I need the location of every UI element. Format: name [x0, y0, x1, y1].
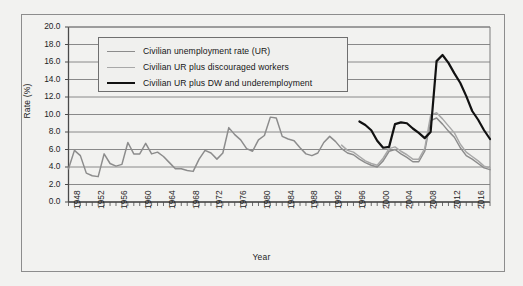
x-axis-label: 2008: [428, 190, 438, 209]
y-axis-label: 16.0: [27, 56, 61, 66]
x-axis-label: 1972: [214, 190, 224, 209]
x-axis-label: 1960: [143, 190, 153, 209]
series-line-1: [69, 117, 491, 177]
y-axis-label: 6.0: [27, 144, 61, 154]
y-axis-label: 10.0: [27, 109, 61, 119]
chart-figure: Rate (%) Year Civilian unemployment rate…: [0, 0, 523, 286]
series-line-3: [359, 55, 490, 148]
x-axis-label: 1996: [357, 190, 367, 209]
x-axis-label: 2000: [381, 190, 391, 209]
legend-swatch-line-icon: [107, 51, 135, 52]
legend-label: Civilian unemployment rate (UR): [143, 46, 270, 56]
x-axis-label: 1948: [72, 190, 82, 209]
x-axis-label: 1980: [262, 190, 272, 209]
x-axis-label: 1956: [119, 190, 129, 209]
x-axis-label: 2016: [476, 190, 486, 209]
x-axis-title: Year: [0, 252, 523, 262]
y-axis-label: 2.0: [27, 179, 61, 189]
x-axis-label: 1952: [96, 190, 106, 209]
x-axis-label: 2004: [404, 190, 414, 209]
x-axis-label: 2012: [452, 190, 462, 209]
y-axis-label: 18.0: [27, 39, 61, 49]
legend-swatch-line-icon: [107, 82, 135, 84]
y-axis-label: 4.0: [27, 161, 61, 171]
series-line-2: [342, 113, 490, 168]
y-axis-label: 20.0: [27, 21, 61, 31]
legend-swatch-line-icon: [107, 67, 135, 68]
x-axis-label: 1992: [333, 190, 343, 209]
x-axis-label: 1968: [191, 190, 201, 209]
x-axis-label: 1964: [167, 190, 177, 209]
y-axis-label: 8.0: [27, 126, 61, 136]
legend-item: Civilian UR plus DW and underemployment: [99, 74, 347, 92]
y-axis-label: 0.0: [27, 196, 61, 206]
legend-label: Civilian UR plus discouraged workers: [143, 62, 289, 72]
x-axis-label: 1984: [286, 190, 296, 209]
x-axis-label: 1976: [238, 190, 248, 209]
legend-label: Civilian UR plus DW and underemployment: [143, 78, 312, 88]
chart-legend: Civilian unemployment rate (UR)Civilian …: [98, 37, 348, 92]
x-axis-label: 1988: [309, 190, 319, 209]
y-axis-label: 14.0: [27, 74, 61, 84]
y-axis-label: 12.0: [27, 91, 61, 101]
